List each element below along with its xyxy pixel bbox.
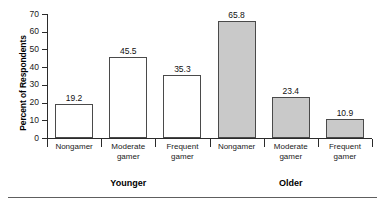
y-axis-tick-label: 40 (30, 62, 39, 72)
y-axis-tick: 10 (42, 120, 47, 121)
bar-value-label: 19.2 (66, 93, 83, 103)
bottom-divider (8, 197, 377, 198)
category-label: Moderategamer (101, 142, 155, 162)
bar: 35.3 (163, 75, 201, 138)
category-label: Nongamer (47, 142, 101, 152)
category-label-line: gamer (101, 152, 155, 162)
bar-value-label: 23.4 (282, 86, 299, 96)
bar: 65.8 (218, 21, 256, 138)
category-label-line: Moderate (264, 142, 318, 152)
category-label: Frequentgamer (318, 142, 372, 162)
group-label: Younger (47, 178, 210, 188)
bar-value-label: 45.5 (120, 46, 137, 56)
bar-value-label: 35.3 (174, 64, 191, 74)
category-label-line: gamer (155, 152, 209, 162)
bar: 23.4 (272, 97, 310, 138)
category-label-line: gamer (318, 152, 372, 162)
category-label: Frequentgamer (155, 142, 209, 162)
y-axis-tick-label: 50 (30, 44, 39, 54)
category-label-line: Nongamer (210, 142, 264, 152)
bar: 19.2 (55, 104, 93, 138)
plot-area: 010203040506070 19.245.535.365.823.410.9 (47, 14, 372, 138)
category-label: Moderategamer (264, 142, 318, 162)
y-axis-tick-label: 0 (34, 133, 39, 143)
y-axis-tick-label: 10 (30, 115, 39, 125)
category-label-line: Frequent (318, 142, 372, 152)
bar-value-label: 10.9 (337, 108, 354, 118)
bar-chart-figure: Percent of Respondents 010203040506070 1… (0, 0, 385, 210)
category-label-line: gamer (264, 152, 318, 162)
bar: 10.9 (326, 119, 364, 138)
y-axis-tick: 40 (42, 67, 47, 68)
y-axis-tick-label: 30 (30, 79, 39, 89)
y-axis-tick-label: 20 (30, 97, 39, 107)
group-label: Older (210, 178, 373, 188)
y-axis-tick: 20 (42, 103, 47, 104)
y-axis-title: Percent of Respondents (18, 13, 28, 153)
y-axis-tick: 60 (42, 32, 47, 33)
y-axis-tick-label: 60 (30, 26, 39, 36)
category-label-line: Nongamer (47, 142, 101, 152)
category-label-line: Frequent (155, 142, 209, 152)
category-label: Nongamer (210, 142, 264, 152)
y-axis-tick-label: 70 (30, 9, 39, 19)
bar: 45.5 (109, 57, 147, 138)
y-axis-tick: 50 (42, 49, 47, 50)
y-axis-tick: 70 (42, 14, 47, 15)
category-label-line: Moderate (101, 142, 155, 152)
y-axis-line (47, 14, 48, 139)
x-axis-tick (372, 139, 373, 147)
y-axis-tick: 30 (42, 85, 47, 86)
bar-value-label: 65.8 (228, 10, 245, 20)
